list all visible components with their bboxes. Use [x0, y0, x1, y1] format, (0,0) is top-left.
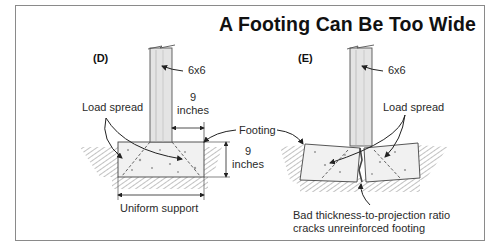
failure-caption-line-1: Bad thickness-to-projection ratio: [293, 209, 450, 222]
panel-e-post-label: 6x6: [388, 64, 406, 77]
panel-d-label: (D): [93, 52, 108, 64]
panel-e-load-spread-label: Load spread: [383, 101, 444, 114]
thickness-unit: inches: [228, 158, 268, 171]
projection-value: 9: [175, 91, 211, 104]
projection-unit: inches: [175, 104, 211, 117]
footing-label: Footing: [239, 124, 276, 137]
panel-e-label: (E): [298, 52, 313, 64]
panel-d-load-spread-label: Load spread: [82, 101, 143, 114]
panel-e-drawing: [280, 45, 448, 205]
panel-d-thickness-dimension: 9 inches: [228, 145, 268, 171]
panel-e-failure-caption: Bad thickness-to-projection ratio cracks…: [293, 209, 450, 235]
thickness-value: 9: [228, 145, 268, 158]
failure-caption-line-2: cracks unreinforced footing: [293, 222, 450, 235]
panel-d-drawing: [80, 45, 230, 200]
panel-d-support-label: Uniform support: [120, 202, 198, 215]
panel-d-post-label: 6x6: [188, 64, 206, 77]
panel-d-projection-dimension: 9 inches: [175, 91, 211, 117]
